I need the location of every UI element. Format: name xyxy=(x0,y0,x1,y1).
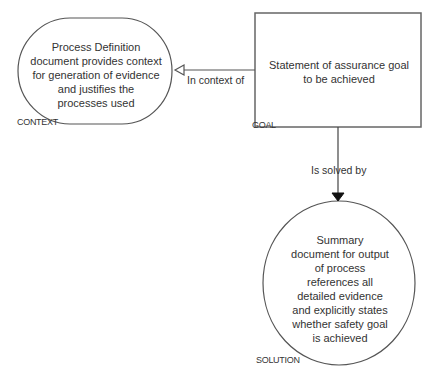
solution-text-line: document for output xyxy=(274,247,406,261)
context-text-line: processes used xyxy=(22,96,170,110)
context-node-text: Process Definition document provides con… xyxy=(22,40,170,110)
solution-node-text: Summary document for output of process r… xyxy=(274,233,406,345)
edge-label-in-context-of: In context of xyxy=(187,74,244,86)
solution-text-line: of process xyxy=(274,261,406,275)
context-text-line: and justifies the xyxy=(22,82,170,96)
hollow-arrowhead-icon xyxy=(175,65,184,75)
solution-text-line: references all xyxy=(274,275,406,289)
solution-text-line: and explicitly states xyxy=(274,303,406,317)
solution-text-line: is achieved xyxy=(274,331,406,345)
goal-type-label: GOAL xyxy=(252,120,276,130)
context-text-line: document provides context xyxy=(22,54,170,68)
context-type-label: CONTEXT xyxy=(17,117,58,127)
goal-text-line: Statement of assurance goal xyxy=(258,58,420,72)
solution-text-line: detailed evidence xyxy=(274,289,406,303)
solution-text-line: Summary xyxy=(274,233,406,247)
goal-text-line: to be achieved xyxy=(258,72,420,86)
filled-arrowhead-icon xyxy=(332,193,344,201)
edge-label-is-solved-by: Is solved by xyxy=(311,164,366,176)
context-text-line: Process Definition xyxy=(22,40,170,54)
solution-type-label: SOLUTION xyxy=(256,355,300,365)
context-text-line: for generation of evidence xyxy=(22,68,170,82)
solution-text-line: whether safety goal xyxy=(274,317,406,331)
goal-node-text: Statement of assurance goal to be achiev… xyxy=(258,58,420,86)
